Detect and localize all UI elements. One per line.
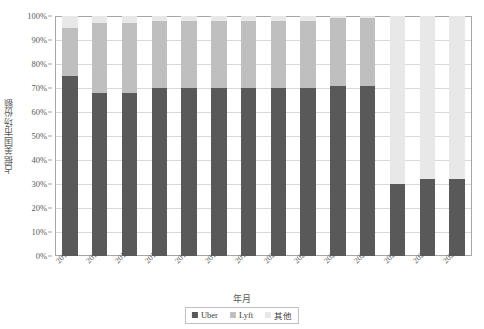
bar-column: [241, 16, 256, 256]
legend-item-label: 其他: [274, 309, 292, 321]
x-axis-title: 年月: [0, 292, 484, 305]
x-axis-title-label: 年月: [233, 294, 251, 304]
y-axis-tick-mark: [48, 64, 52, 65]
bar-segment: [92, 23, 107, 93]
y-axis-tick-label: 20%: [31, 203, 47, 213]
y-axis-tick-label: 70%: [31, 83, 47, 93]
bar-segment: [211, 88, 226, 256]
y-axis-tick-mark: [48, 256, 52, 257]
bar-segment: [211, 16, 226, 21]
stacked-bar-chart: 占据美国市场份额 0%10%20%30%40%50%60%70%80%90%10…: [0, 0, 484, 329]
bar-column: [390, 16, 405, 256]
bar-segment: [300, 88, 315, 256]
y-axis-tick-mark: [48, 232, 52, 233]
legend-swatch-icon: [192, 312, 198, 318]
bar-segment: [360, 86, 375, 256]
bar-column: [271, 16, 286, 256]
bar-segment: [181, 88, 196, 256]
legend-swatch-icon: [265, 312, 271, 318]
y-axis-tick-labels: 0%10%20%30%40%50%60%70%80%90%100%: [0, 16, 52, 256]
bar-column: [211, 16, 226, 256]
legend-item[interactable]: 其他: [265, 309, 292, 321]
y-axis-tick-mark: [48, 136, 52, 137]
y-axis-tick-label: 30%: [31, 179, 47, 189]
bar-segment: [360, 18, 375, 85]
bar-segment: [62, 76, 77, 256]
bar-segment: [241, 88, 256, 256]
bar-segment: [390, 16, 405, 184]
bar-segment: [92, 16, 107, 23]
bar-segment: [62, 16, 77, 28]
bar-column: [122, 16, 137, 256]
bar-column: [92, 16, 107, 256]
y-axis-tick-mark: [48, 160, 52, 161]
bar-segment: [122, 23, 137, 93]
legend-swatch-icon: [230, 312, 236, 318]
bars-layer: [55, 16, 472, 256]
bar-segment: [300, 21, 315, 88]
bar-segment: [300, 16, 315, 21]
bar-segment: [211, 21, 226, 88]
bar-segment: [241, 21, 256, 88]
bar-segment: [241, 16, 256, 21]
bar-column: [181, 16, 196, 256]
bar-segment: [122, 16, 137, 23]
y-axis-tick-label: 90%: [31, 35, 47, 45]
bar-column: [449, 16, 464, 256]
y-axis-tick-label: 60%: [31, 107, 47, 117]
y-axis-tick-label: 10%: [31, 227, 47, 237]
bar-segment: [92, 93, 107, 256]
y-axis-tick-mark: [48, 40, 52, 41]
bar-column: [300, 16, 315, 256]
y-axis-tick-label: 80%: [31, 59, 47, 69]
y-axis-tick-label: 50%: [31, 131, 47, 141]
legend-item[interactable]: Lyft: [230, 310, 253, 320]
bar-segment: [152, 88, 167, 256]
y-axis-tick-mark: [48, 112, 52, 113]
legend-item[interactable]: Uber: [192, 310, 218, 320]
y-axis-tick-mark: [48, 88, 52, 89]
bar-column: [62, 16, 77, 256]
bar-segment: [330, 18, 345, 85]
y-axis-tick-mark: [48, 208, 52, 209]
bar-segment: [152, 21, 167, 88]
bar-segment: [271, 88, 286, 256]
y-axis-tick-label: 100%: [27, 11, 47, 21]
bar-segment: [330, 86, 345, 256]
bar-column: [152, 16, 167, 256]
bar-segment: [420, 16, 435, 179]
bar-segment: [271, 16, 286, 21]
bar-segment: [271, 21, 286, 88]
y-axis-tick-mark: [48, 184, 52, 185]
bar-segment: [62, 28, 77, 76]
bar-column: [420, 16, 435, 256]
y-axis-tick-label: 40%: [31, 155, 47, 165]
y-axis-tick-label: 0%: [36, 251, 47, 261]
legend-item-label: Lyft: [239, 310, 253, 320]
bar-segment: [152, 16, 167, 21]
bar-segment: [122, 93, 137, 256]
bar-segment: [181, 16, 196, 21]
legend-item-label: Uber: [201, 310, 218, 320]
bar-column: [360, 16, 375, 256]
bar-column: [330, 16, 345, 256]
bar-segment: [449, 16, 464, 179]
bar-segment: [330, 16, 345, 18]
bar-segment: [360, 16, 375, 18]
chart-legend: UberLyft其他: [185, 307, 299, 324]
y-axis-tick-mark: [48, 16, 52, 17]
bar-segment: [181, 21, 196, 88]
